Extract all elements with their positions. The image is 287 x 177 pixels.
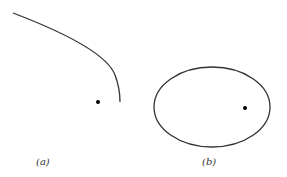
label-a: (a) xyxy=(36,156,50,167)
focus-dot-b xyxy=(243,106,247,110)
ellipse xyxy=(154,67,270,147)
diagram-canvas xyxy=(0,0,287,177)
parabolic-arc xyxy=(13,13,120,102)
label-b: (b) xyxy=(202,156,216,167)
focus-dot-a xyxy=(96,100,100,104)
